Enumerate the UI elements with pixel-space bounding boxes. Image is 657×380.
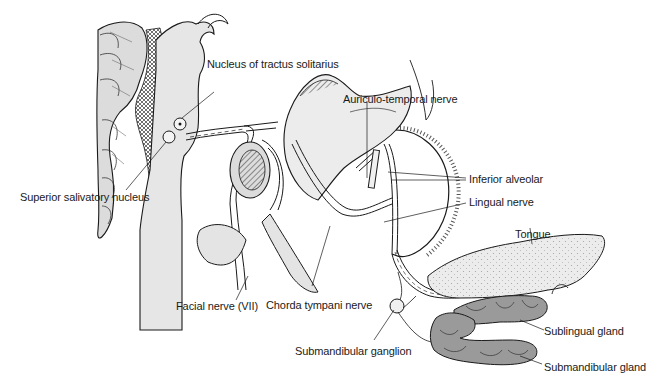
submandibular-ganglion-marker [390, 299, 404, 313]
styloid-process [262, 214, 318, 292]
label-facial-nerve: Facial nerve (VII) [176, 300, 258, 312]
label-inferior-alveolar: Inferior alveolar [469, 173, 543, 185]
label-submandibular-ganglion: Submandibular ganglion [295, 345, 411, 357]
label-submandibular-gland: Submandibular gland [544, 361, 646, 373]
mandible [392, 128, 459, 257]
label-nucleus-tractus-solitarius: Nucleus of tractus solitarius [207, 58, 339, 70]
label-auriculo-temporal-nerve: Auriculo-temporal nerve [343, 93, 457, 105]
diagram-illustration [0, 0, 657, 380]
label-sublingual-gland: Sublingual gland [544, 325, 624, 337]
label-superior-salivatory-nucleus: Superior salivatory nucleus [20, 191, 149, 203]
ear-structure [197, 140, 283, 265]
anatomy-diagram: Nucleus of tractus solitarius Superior s… [0, 0, 657, 380]
label-chorda-tympani-nerve: Chorda tympani nerve [266, 299, 372, 311]
superior-salivatory-nucleus-marker [163, 131, 175, 143]
label-lingual-nerve: Lingual nerve [469, 196, 534, 208]
mandibular-nerve-branches [356, 144, 398, 254]
label-tongue: Tongue [515, 228, 551, 240]
facial-nerve-path [186, 122, 278, 290]
